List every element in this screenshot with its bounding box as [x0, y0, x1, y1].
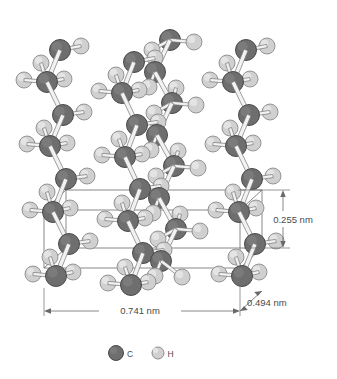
legend-swatch-highlight — [110, 347, 117, 354]
legend-label-h: H — [168, 349, 174, 359]
molecular-model-svg: 0.741 nm 0.494 nm 0.255 nm CH — [0, 0, 337, 379]
atom-highlight — [152, 233, 159, 240]
legend-item-h: H — [152, 347, 174, 359]
depth-dimension-label: 0.494 nm — [247, 297, 287, 308]
legend-label-c: C — [127, 349, 133, 359]
width-dimension-label: 0.741 nm — [120, 305, 160, 316]
atom-highlight — [48, 268, 58, 278]
height-dimension-label: 0.255 nm — [273, 214, 313, 225]
atom-highlight — [190, 99, 197, 106]
atom-highlight — [176, 271, 183, 278]
atom-highlight — [146, 44, 153, 51]
atom-highlight — [148, 107, 155, 114]
atom-highlight — [194, 225, 201, 232]
atom-highlight — [150, 170, 157, 177]
legend-swatch-highlight — [153, 348, 159, 354]
atom-highlight — [123, 277, 133, 287]
polyethylene-crystal-figure: 0.741 nm 0.494 nm 0.255 nm CH — [0, 0, 337, 379]
legend-item-c: C — [109, 346, 134, 361]
legend-swatch-c — [109, 346, 124, 361]
atom-highlight — [192, 162, 199, 169]
atom-highlight — [234, 268, 244, 278]
atom-highlight — [188, 36, 195, 43]
